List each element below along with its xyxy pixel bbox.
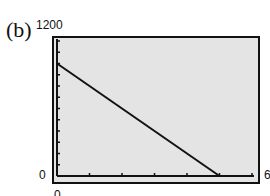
plot-frame: [53, 37, 259, 183]
line-chart: [0, 0, 270, 196]
